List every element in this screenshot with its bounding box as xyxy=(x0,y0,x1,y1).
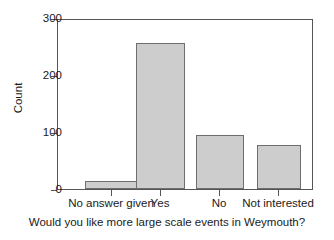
x-tick-label-not-interested: Not interested xyxy=(242,197,314,210)
bar-yes xyxy=(136,43,185,189)
bar-no xyxy=(196,135,244,189)
y-axis-title: Count xyxy=(12,68,24,128)
x-tick-label-yes: Yes xyxy=(151,197,170,210)
x-tick-mark-not-interested xyxy=(278,190,279,196)
x-axis-title: Would you like more large scale events i… xyxy=(0,216,334,229)
x-tick-label-no: No xyxy=(212,197,227,210)
y-tick-mark-0 xyxy=(51,190,57,191)
x-tick-label-no-answer-given: No answer given xyxy=(68,197,154,210)
x-tick-mark-yes xyxy=(160,190,161,196)
bar-not-interested xyxy=(257,145,301,190)
plot-area xyxy=(57,19,313,190)
x-tick-mark-no xyxy=(219,190,220,196)
x-tick-mark-no-answer-given xyxy=(111,190,112,196)
bar-no-answer-given xyxy=(85,181,138,189)
bar-chart-figure: 300 200 100 0 Count No answer given Yes … xyxy=(0,0,334,240)
